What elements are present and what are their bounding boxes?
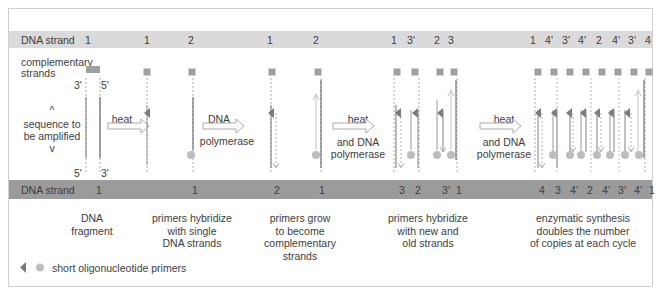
stage2 bbox=[144, 69, 196, 173]
pcr-diagram bbox=[0, 0, 662, 295]
stage5 bbox=[535, 69, 653, 173]
polymerase-arrow bbox=[203, 119, 244, 133]
circle-primer-icon bbox=[187, 151, 195, 159]
stage1-dna-fragment bbox=[86, 66, 100, 172]
stage4 bbox=[394, 69, 458, 173]
heat-polymerase-arrow-2 bbox=[480, 119, 521, 133]
legend-circle-icon bbox=[36, 264, 44, 272]
heat-polymerase-arrow-1 bbox=[333, 119, 374, 133]
complementary-strands-marker bbox=[86, 66, 100, 73]
legend-triangle-icon bbox=[20, 262, 26, 273]
stage3 bbox=[268, 69, 322, 173]
heat-arrow-1 bbox=[108, 119, 149, 133]
